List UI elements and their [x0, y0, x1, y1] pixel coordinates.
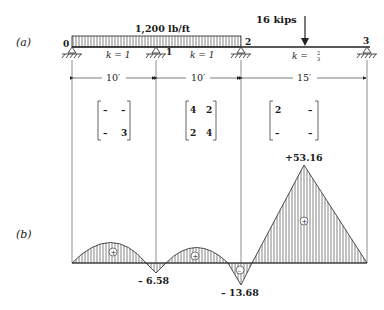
- moment-value-support2: – 13.68: [221, 287, 259, 298]
- support-label-2: 2: [245, 37, 251, 47]
- span2-length: 10′: [191, 72, 205, 83]
- moment-value-peak: +53.16: [285, 152, 323, 163]
- span2-stiffness: k = 1: [190, 50, 214, 60]
- continuous-beam-diagram: (a) (b) 1,200 lb/ft 16 kips 0 1 2 3 k = …: [0, 0, 384, 310]
- matrix3-cell: –: [308, 128, 313, 138]
- support-label-1: 1: [166, 47, 172, 57]
- span1-stiffness: k = 1: [106, 50, 130, 60]
- span3-stiffness: k =: [292, 51, 308, 61]
- support-label-0: 0: [63, 39, 69, 49]
- positive-sign-icon: +: [109, 248, 117, 257]
- point-load-label: 16 kips: [256, 14, 297, 25]
- matrix2-cell: 4: [190, 105, 196, 115]
- pin-support-icon: [231, 47, 251, 58]
- part-label-b: (b): [16, 228, 32, 241]
- matrix1-cell: –: [103, 105, 108, 115]
- svg-text:+: +: [111, 249, 117, 257]
- span3-stiffness-den: 3: [317, 56, 320, 62]
- matrix2-cell: 2: [206, 105, 212, 115]
- svg-text:+: +: [302, 218, 308, 226]
- moment-diagram: [72, 165, 367, 285]
- distributed-load-label: 1,200 lb/ft: [135, 23, 191, 35]
- matrix2-cell: 4: [206, 128, 212, 138]
- matrix3-cell: –: [275, 128, 280, 138]
- moment-value-support1: – 6.58: [138, 275, 170, 286]
- part-label-a: (a): [16, 36, 31, 49]
- span3-length: 15′: [297, 72, 311, 83]
- positive-sign-icon: +: [191, 252, 199, 261]
- positive-sign-icon: +: [300, 217, 308, 226]
- matrix3-cell: –: [308, 105, 313, 115]
- matrix1-cell: 3: [121, 128, 127, 138]
- span1-length: 10′: [106, 72, 120, 83]
- svg-text:+: +: [193, 253, 199, 261]
- matrix2-cell: 2: [190, 128, 196, 138]
- point-load-arrow-icon: [301, 16, 309, 46]
- matrix1-cell: –: [103, 128, 108, 138]
- matrix3-cell: 2: [275, 105, 281, 115]
- matrix1-cell: –: [121, 105, 126, 115]
- distributed-load: [72, 36, 241, 47]
- pin-support-icon: [357, 47, 377, 58]
- support-label-3: 3: [363, 36, 369, 46]
- svg-text:–: –: [238, 267, 242, 275]
- pin-support-icon: [146, 47, 166, 58]
